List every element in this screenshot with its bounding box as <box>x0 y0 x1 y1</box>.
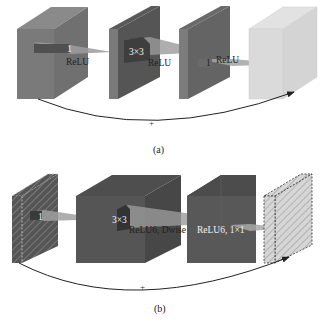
label-a2-kernel: 3×3 <box>129 47 144 57</box>
plus-sign-a: + <box>149 118 154 128</box>
caption-a: (a) <box>153 144 164 156</box>
panel-b: 1 3×3 ReLU6, Dwise ReLU6, 1×1 + (b) <box>12 174 312 315</box>
kernel-a1 <box>34 44 70 53</box>
caption-b: (b) <box>154 303 166 315</box>
label-a1-activation: ReLU <box>66 57 89 67</box>
label-b2-kernel: 3×3 <box>112 215 127 225</box>
label-a3-activation: ReLU <box>216 55 239 65</box>
block-b4-output-tensor <box>264 174 312 263</box>
label-b3-activation: ReLU6, 1×1 <box>197 225 245 235</box>
label-a1-kernel: 1 <box>67 43 72 54</box>
label-a3-kernel: 1 <box>206 58 211 68</box>
label-b1-kernel: 1 <box>38 211 43 222</box>
plus-sign-b: + <box>140 282 145 292</box>
block-a3-conv1x1 <box>179 6 230 99</box>
label-b2-activation: ReLU6, Dwise <box>129 225 186 235</box>
label-a2-activation: ReLU <box>148 58 171 68</box>
diagram-canvas: 1 ReLU 3×3 ReLU 1 ReLU + (a) <box>0 0 325 326</box>
panel-a: 1 ReLU 3×3 ReLU 1 ReLU + (a) <box>17 6 317 156</box>
block-a4-output-tensor <box>249 7 317 99</box>
block-b3-depthwise-conv <box>187 175 256 263</box>
